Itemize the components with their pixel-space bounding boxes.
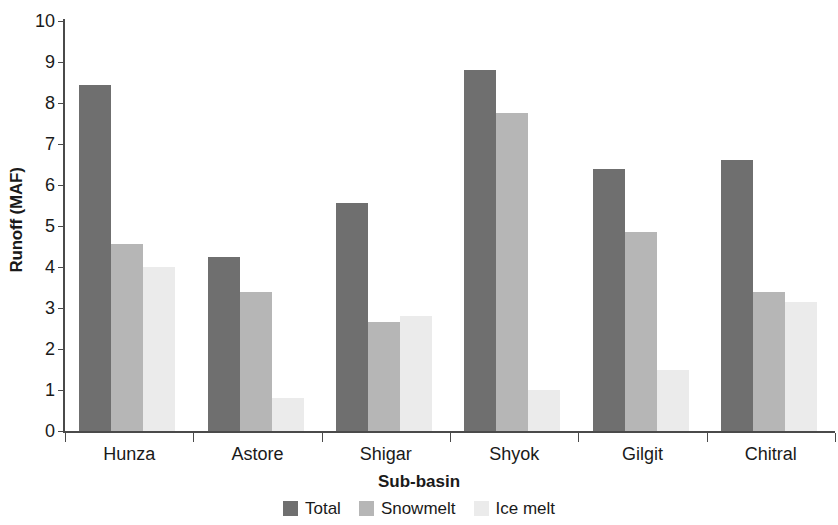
y-axis-tick-label: 0 bbox=[45, 422, 55, 440]
bar-chitral-total bbox=[721, 160, 753, 431]
y-axis-tick-label: 6 bbox=[45, 176, 55, 194]
x-axis-separator-tick bbox=[322, 433, 323, 442]
bar-group bbox=[208, 21, 304, 431]
bar-gilgit-total bbox=[593, 169, 625, 431]
bar-hunza-ice-melt bbox=[143, 267, 175, 431]
y-axis-tick-label: 9 bbox=[45, 53, 55, 71]
x-axis-tick-label: Shyok bbox=[489, 444, 539, 465]
bar-chart: Runoff (MAF) 012345678910 HunzaAstoreShi… bbox=[0, 0, 838, 525]
legend-label: Ice melt bbox=[496, 500, 556, 517]
y-axis-tick-label: 8 bbox=[45, 94, 55, 112]
bar-chitral-snowmelt bbox=[753, 292, 785, 431]
y-axis-tick-label: 1 bbox=[45, 381, 55, 399]
bar-gilgit-ice-melt bbox=[657, 370, 689, 432]
x-axis-separator-tick bbox=[450, 433, 451, 442]
bar-hunza-snowmelt bbox=[111, 244, 143, 431]
x-axis-tick-label: Shigar bbox=[360, 444, 412, 465]
x-axis-separator-tick bbox=[578, 433, 579, 442]
x-axis-title: Sub-basin bbox=[0, 472, 838, 492]
legend-item-total[interactable]: Total bbox=[283, 500, 341, 517]
y-axis-tick-label: 3 bbox=[45, 299, 55, 317]
y-axis-title: Runoff (MAF) bbox=[0, 0, 34, 440]
bar-group bbox=[593, 21, 689, 431]
x-axis-separator-tick bbox=[707, 433, 708, 442]
bar-astore-ice-melt bbox=[272, 398, 304, 431]
x-axis-tick-label: Gilgit bbox=[622, 444, 663, 465]
y-axis: 012345678910 bbox=[34, 0, 64, 440]
legend-swatch-icon bbox=[283, 501, 298, 516]
bar-shigar-ice-melt bbox=[400, 316, 432, 431]
x-axis-line bbox=[63, 431, 835, 433]
bar-shyok-total bbox=[464, 70, 496, 431]
legend-swatch-icon bbox=[359, 501, 374, 516]
legend-label: Total bbox=[305, 500, 341, 517]
x-axis-separator-tick bbox=[193, 433, 194, 442]
x-axis-separator-tick bbox=[835, 433, 836, 442]
bar-gilgit-snowmelt bbox=[625, 232, 657, 431]
legend-item-ice-melt[interactable]: Ice melt bbox=[474, 500, 556, 517]
bar-group bbox=[721, 21, 817, 431]
legend-label: Snowmelt bbox=[381, 500, 456, 517]
bar-shyok-ice-melt bbox=[528, 390, 560, 431]
y-axis-title-text: Runoff (MAF) bbox=[7, 167, 27, 272]
y-axis-tick-label: 5 bbox=[45, 217, 55, 235]
bar-group bbox=[464, 21, 560, 431]
bar-group bbox=[79, 21, 175, 431]
bar-chitral-ice-melt bbox=[785, 302, 817, 431]
chart-legend: TotalSnowmeltIce melt bbox=[0, 500, 838, 517]
x-axis-tick-label: Hunza bbox=[103, 444, 155, 465]
bar-shigar-snowmelt bbox=[368, 322, 400, 431]
y-axis-tick-label: 10 bbox=[35, 12, 55, 30]
bar-shigar-total bbox=[336, 203, 368, 431]
y-axis-tick-label: 2 bbox=[45, 340, 55, 358]
x-axis-tick-label: Astore bbox=[231, 444, 283, 465]
bar-astore-snowmelt bbox=[240, 292, 272, 431]
y-axis-tick-label: 4 bbox=[45, 258, 55, 276]
x-axis-tick-label: Chitral bbox=[745, 444, 797, 465]
x-axis-separator-tick bbox=[65, 433, 66, 442]
bar-hunza-total bbox=[79, 85, 111, 431]
bar-shyok-snowmelt bbox=[496, 113, 528, 431]
x-axis-title-text: Sub-basin bbox=[378, 472, 460, 491]
legend-swatch-icon bbox=[474, 501, 489, 516]
y-axis-tick-label: 7 bbox=[45, 135, 55, 153]
bar-astore-total bbox=[208, 257, 240, 431]
bar-group bbox=[336, 21, 432, 431]
plot-area bbox=[65, 21, 835, 431]
legend-item-snowmelt[interactable]: Snowmelt bbox=[359, 500, 456, 517]
